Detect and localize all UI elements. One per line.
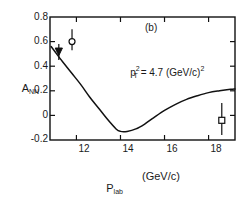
panel-label: (b) <box>145 22 157 33</box>
annotation-subscript: T <box>134 72 138 79</box>
xtick-label-16: 16 <box>162 143 182 154</box>
ytick-label--0.2: -0.2 <box>5 133 48 144</box>
y-axis-label-main: A <box>22 82 29 94</box>
annotation-pt-squared: p2T = 4.7 (GeV/c)2 <box>119 56 204 89</box>
y-axis-label: ANN <box>10 70 39 106</box>
annotation-superscript: 2 <box>136 65 140 72</box>
xtick-label-12: 12 <box>74 143 94 154</box>
annotation-equals: = 4.7 (GeV/c) <box>138 67 201 78</box>
xtick-label-14: 14 <box>118 143 138 154</box>
ytick-label-0.6: 0.6 <box>8 35 48 46</box>
y-axis-label-sub: NN <box>29 88 39 95</box>
annotation-tail-superscript: 2 <box>200 65 204 72</box>
x-axis-units: (GeV/c) <box>142 170 180 182</box>
x-axis-label: Plab <box>94 170 123 197</box>
ytick-label-0.8: 0.8 <box>8 11 48 22</box>
chart-figure: 0.8 0.6 0.4 0.2 0 -0.2 12 14 16 18 ANN P… <box>0 0 252 197</box>
xtick-label-18: 18 <box>206 143 226 154</box>
ytick-label-0: 0 <box>8 109 48 120</box>
x-axis-label-sub: lab <box>114 188 123 195</box>
x-axis-label-main: P <box>106 182 113 194</box>
